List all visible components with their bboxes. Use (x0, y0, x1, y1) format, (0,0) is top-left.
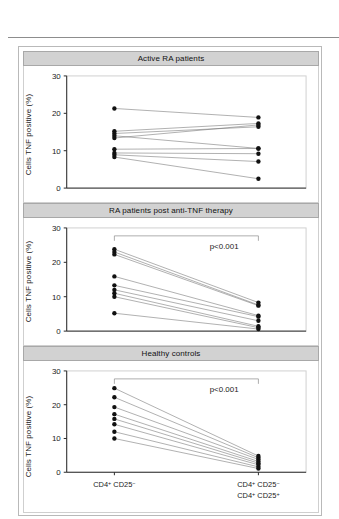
y-axis-tick-label: 30 (52, 367, 61, 376)
paired-connector-line (114, 438, 258, 468)
paired-connector-line (114, 125, 258, 138)
panel-active-ra: Active RA patients Cells TNF positive (%… (23, 51, 319, 203)
data-points (112, 106, 260, 181)
significance-bracket (114, 236, 258, 241)
data-point-left (112, 136, 116, 140)
data-point-left (112, 147, 116, 151)
data-point-right (256, 115, 260, 119)
paired-connector-line (114, 108, 258, 117)
data-point-right (256, 303, 260, 307)
y-axis-tick-label: 10 (52, 434, 61, 443)
data-point-right (256, 319, 260, 323)
paired-connector-line (114, 414, 258, 461)
data-point-left (112, 436, 116, 440)
p-value-label: p<0.001 (210, 385, 239, 394)
panel-header-healthy-controls: Healthy controls (23, 346, 319, 361)
paired-connector-line (114, 397, 258, 457)
data-point-left (112, 274, 116, 278)
plot-border (67, 228, 306, 331)
bracket-path (114, 236, 258, 241)
x-axis-label-left: CD4+ CD25− (93, 480, 135, 489)
p-value-label: p<0.001 (210, 242, 240, 251)
data-point-right (256, 159, 260, 163)
plot-area-healthy-controls: 0102030p<0.001CD4+ CD25−CD4+ CD25−CD4+ C… (24, 361, 318, 512)
paired-connector-line (114, 407, 258, 459)
data-point-left (112, 405, 116, 409)
data-point-left (112, 295, 116, 299)
x-axis-label-right-line1: CD4+ CD25− (237, 480, 279, 489)
top-horizontal-rule (8, 37, 339, 38)
paired-connector-line (114, 419, 258, 463)
paired-connector-line (114, 136, 258, 149)
panel-header-post-anti-tnf: RA patients post anti-TNF therapy (23, 203, 319, 218)
plot-border (67, 371, 306, 472)
connector-lines (114, 388, 258, 468)
connector-lines (114, 249, 258, 329)
data-point-left (112, 430, 116, 434)
data-point-left (112, 311, 116, 315)
panel-stack: Active RA patients Cells TNF positive (%… (23, 51, 319, 513)
panel-title-text: RA patients post anti-TNF therapy (109, 206, 233, 215)
y-axis-tick-label: 30 (52, 72, 61, 81)
data-point-right (256, 146, 260, 150)
y-axis-tick-label: 30 (52, 224, 61, 233)
figure-frame: Active RA patients Cells TNF positive (%… (18, 46, 322, 516)
y-axis-tick-label: 20 (52, 109, 61, 118)
paired-connector-line (114, 252, 258, 305)
paired-connector-line (114, 432, 258, 467)
data-points (112, 247, 260, 331)
y-axis-tick-label: 0 (56, 184, 61, 193)
data-point-left (112, 155, 116, 159)
panel-title-text: Active RA patients (138, 54, 205, 63)
data-point-right (256, 177, 260, 181)
data-point-right (256, 314, 260, 318)
y-axis-tick-label: 20 (52, 258, 61, 267)
paired-connector-line (114, 424, 258, 465)
figure-root: Active RA patients Cells TNF positive (%… (0, 0, 339, 519)
data-point-left (112, 283, 116, 287)
y-axis-tick-label: 10 (52, 147, 61, 156)
significance-bracket (114, 379, 258, 384)
panel-header-active-ra: Active RA patients (23, 51, 319, 66)
plot-area-post-anti-tnf: 0102030p<0.001 (24, 218, 318, 345)
x-axis-label-right-line2: CD4+ CD25+ (237, 491, 279, 500)
data-point-left (112, 417, 116, 421)
paired-connector-line (114, 153, 258, 154)
data-points (112, 386, 260, 471)
y-axis-tick-label: 10 (52, 293, 61, 302)
y-axis-tick-label: 0 (56, 327, 61, 336)
data-point-right (256, 327, 260, 331)
data-point-left (112, 422, 116, 426)
data-point-right (256, 466, 260, 470)
plot-border (67, 76, 306, 188)
y-axis-tick-label: 20 (52, 401, 61, 410)
connector-lines (114, 108, 258, 178)
panel-body-active-ra: Cells TNF positive (%) 0102030 (23, 66, 319, 203)
panel-body-healthy-controls: Cells TNF positive (%) 0102030p<0.001CD4… (23, 361, 319, 513)
data-point-right (256, 123, 260, 127)
bracket-path (114, 379, 258, 384)
data-point-left (112, 252, 116, 256)
data-point-left (112, 412, 116, 416)
data-point-left (112, 386, 116, 390)
data-point-left (112, 395, 116, 399)
panel-body-post-anti-tnf: Cells TNF positive (%) 0102030p<0.001 (23, 218, 319, 346)
data-point-left (112, 106, 116, 110)
plot-area-active-ra: 0102030 (24, 66, 318, 202)
panel-title-text: Healthy controls (142, 349, 201, 358)
y-axis-tick-label: 0 (56, 468, 61, 477)
paired-connector-line (114, 388, 258, 456)
panel-post-anti-tnf: RA patients post anti-TNF therapy Cells … (23, 203, 319, 346)
paired-connector-line (114, 148, 258, 149)
panel-healthy-controls: Healthy controls Cells TNF positive (%) … (23, 346, 319, 513)
data-point-right (256, 152, 260, 156)
